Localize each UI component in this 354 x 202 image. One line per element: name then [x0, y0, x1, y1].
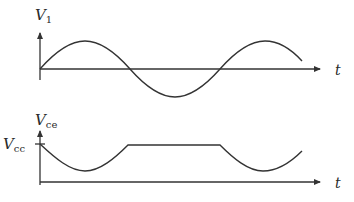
- vce-clipped-wave: [40, 144, 302, 171]
- vce-plot: Vce Vcc t: [3, 111, 341, 191]
- waveform-diagram: V1 t Vce Vcc t: [0, 0, 354, 202]
- t-axis-label-bottom: t: [335, 175, 341, 191]
- vcc-tick-label: Vcc: [3, 135, 25, 154]
- v1-plot: V1 t: [35, 6, 341, 97]
- v1-axis-label: V1: [35, 6, 52, 25]
- vce-axis-label: Vce: [35, 111, 57, 130]
- t-axis-label-top: t: [335, 62, 341, 78]
